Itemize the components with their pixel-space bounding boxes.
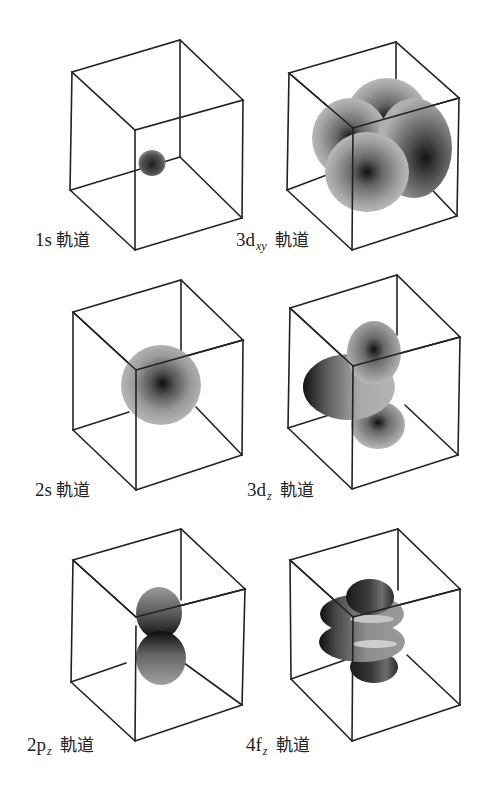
panel-3dxy	[287, 42, 459, 250]
label-main: 2p	[27, 734, 46, 755]
label-suffix: 軌道	[60, 735, 94, 755]
panel-4fz	[290, 529, 460, 741]
cube-wireframe	[70, 40, 243, 250]
label-main: 3d	[247, 479, 266, 500]
orbital-3dxy-lobes	[312, 78, 452, 212]
panel-1s	[70, 40, 243, 250]
label-main: 2s	[35, 479, 52, 500]
orbital-1s-sphere	[139, 150, 166, 176]
orbital-4fz-shape	[319, 579, 405, 683]
label-suffix: 軌道	[56, 480, 90, 500]
label-4fz: 4fz軌道	[246, 735, 310, 757]
label-main: 1s	[35, 229, 52, 250]
label-suffix: 軌道	[280, 480, 314, 500]
label-3dz: 3dz軌道	[247, 480, 314, 502]
label-main: 4f	[246, 734, 262, 755]
panel-3dz	[288, 275, 460, 489]
label-suffix: 軌道	[276, 735, 310, 755]
panel-2pz	[71, 529, 245, 741]
label-subscript: z	[47, 744, 52, 758]
label-subscript: z	[263, 744, 268, 758]
orbital-2pz-lobes	[136, 587, 186, 685]
label-2s: 2s軌道	[35, 480, 90, 499]
label-subscript: z	[267, 489, 272, 503]
orbital-2s-sphere	[121, 345, 201, 425]
atomic-orbitals-figure	[0, 0, 496, 785]
label-1s: 1s軌道	[35, 230, 90, 249]
label-2pz: 2pz軌道	[27, 735, 94, 757]
label-suffix: 軌道	[56, 230, 90, 250]
label-subscript: xy	[256, 239, 267, 253]
label-3dxy: 3dxy軌道	[236, 230, 309, 252]
label-suffix: 軌道	[275, 230, 309, 250]
orbital-3dz-shape	[303, 321, 405, 449]
panel-2s	[73, 280, 243, 490]
label-main: 3d	[236, 229, 255, 250]
